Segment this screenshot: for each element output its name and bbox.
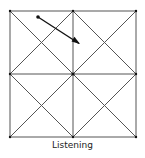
diagram-canvas [0, 0, 145, 158]
diagram-caption: Listening [0, 140, 145, 151]
